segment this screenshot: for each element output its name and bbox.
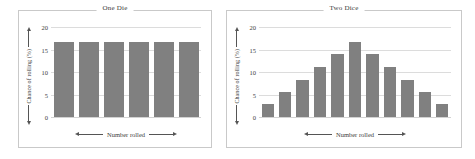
y-tick-labels-two-dice: 05101520 — [243, 27, 257, 117]
arrow-right-icon — [402, 132, 406, 136]
y-tick-label: 5 — [45, 91, 48, 98]
bar — [296, 80, 308, 117]
gridline — [51, 117, 201, 118]
x-axis-label-text: Number rolled — [103, 131, 149, 138]
y-tick-label: 10 — [250, 69, 257, 76]
figure-canvas: One Die Chance of rolling (%) 05101520 N… — [0, 0, 475, 159]
y-axis-title-one-die: Chance of rolling (%) — [22, 27, 35, 125]
axis-line — [79, 134, 103, 135]
axis-line — [378, 134, 402, 135]
y-tick-label: 0 — [45, 114, 48, 121]
bar-series-one-die — [51, 27, 201, 117]
bar — [401, 80, 413, 117]
arrow-down-icon — [235, 121, 239, 125]
y-axis-label-text: Chance of rolling (%) — [26, 47, 32, 106]
x-axis-title-one-die: Number rolled — [51, 127, 201, 141]
bar — [314, 67, 326, 117]
axis-line — [28, 105, 29, 121]
bar — [129, 42, 149, 117]
axis-line — [149, 134, 173, 135]
axis-line — [308, 134, 332, 135]
axis-line — [28, 31, 29, 47]
y-tick-label: 15 — [42, 46, 49, 53]
bar — [54, 42, 74, 117]
x-axis-label-text: Number rolled — [332, 131, 378, 138]
gridline — [259, 117, 451, 118]
y-tick-label: 20 — [42, 24, 49, 31]
bar — [79, 42, 99, 117]
chart-panel-one-die: One Die Chance of rolling (%) 05101520 N… — [18, 10, 212, 148]
y-tick-label: 15 — [250, 46, 257, 53]
y-tick-label: 20 — [250, 24, 257, 31]
plot-area-one-die — [51, 27, 201, 117]
arrow-right-icon — [173, 132, 177, 136]
bar — [366, 54, 378, 117]
bar — [419, 92, 431, 117]
bar-series-two-dice — [259, 27, 451, 117]
bar — [349, 42, 361, 117]
chart-title-one-die: One Die — [97, 4, 134, 12]
plot-area-two-dice — [259, 27, 451, 117]
y-axis-title-two-dice: Chance of rolling (%) — [230, 27, 243, 125]
bar — [331, 54, 343, 117]
y-tick-label: 0 — [253, 114, 256, 121]
axis-line — [236, 31, 237, 47]
bar — [179, 42, 199, 117]
bar — [104, 42, 124, 117]
bar — [384, 67, 396, 117]
arrow-down-icon — [27, 121, 31, 125]
x-axis-title-two-dice: Number rolled — [259, 127, 451, 141]
chart-panel-two-dice: Two Dice Chance of rolling (%) 05101520 … — [226, 10, 462, 148]
bar — [436, 104, 448, 117]
y-tick-label: 10 — [42, 69, 49, 76]
y-tick-label: 5 — [253, 91, 256, 98]
bar — [262, 104, 274, 117]
bar — [154, 42, 174, 117]
bar — [279, 92, 291, 117]
y-tick-labels-one-die: 05101520 — [35, 27, 49, 117]
y-axis-label-text: Chance of rolling (%) — [234, 47, 240, 106]
chart-title-two-dice: Two Dice — [324, 4, 365, 12]
axis-line — [236, 105, 237, 121]
